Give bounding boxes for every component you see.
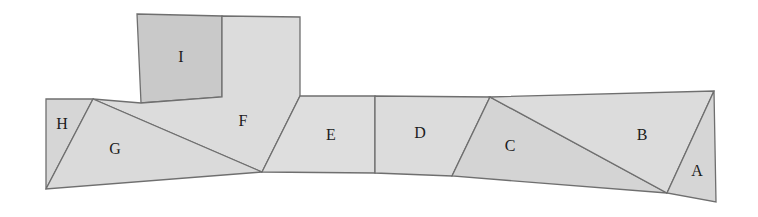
piece-label-f: F	[239, 112, 248, 129]
pieces-group	[46, 14, 716, 202]
piece-label-g: G	[109, 140, 121, 157]
piece-label-h: H	[56, 115, 68, 132]
piece-label-a: A	[691, 162, 703, 179]
piece-label-b: B	[637, 126, 648, 143]
piece-label-i: I	[178, 48, 183, 65]
piece-label-e: E	[326, 126, 336, 143]
piece-label-c: C	[505, 137, 516, 154]
piece-label-d: D	[414, 124, 426, 141]
dissection-diagram: IFHGEDCBA	[0, 0, 758, 217]
